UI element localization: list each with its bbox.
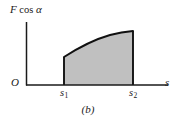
y-axis-label: F cos α (10, 4, 42, 16)
x-tick-label-s1: s1 (60, 88, 68, 99)
y-axis-symbol: F (10, 3, 17, 15)
x-tick-label-s2: s2 (129, 88, 137, 99)
tick-sub-s2: 2 (133, 91, 137, 100)
tick-sub-s1: 1 (64, 91, 68, 100)
figure-caption: (b) (0, 104, 176, 115)
x-axis-label: s (165, 77, 169, 88)
work-area-figure: F cos α O s s1 s2 (b) (0, 0, 176, 122)
origin-label: O (11, 77, 19, 88)
y-axis-function: cos (19, 4, 33, 15)
y-axis-angle: α (36, 3, 42, 15)
